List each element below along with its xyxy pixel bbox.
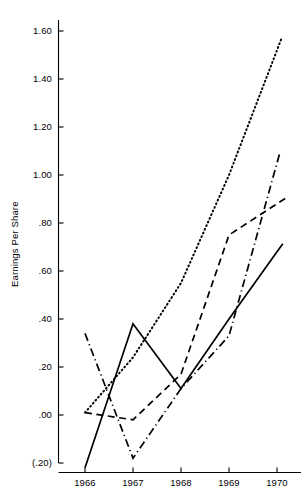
x-axis-tick-label: 1969: [209, 478, 249, 488]
y-axis-tick-label: .60: [12, 266, 52, 276]
y-axis-tick-label: 1.00: [12, 170, 52, 180]
y-axis-tick-label: 1.40: [12, 74, 52, 84]
series-dashed: [85, 197, 287, 420]
axis-lines: [59, 20, 302, 473]
y-axis-tick-label: .00: [12, 410, 52, 420]
y-axis-tick-label: .80: [12, 218, 52, 228]
x-axis-tick-label: 1970: [257, 478, 297, 488]
x-axis-ticks: [85, 468, 277, 473]
y-axis-tick-label: 1.60: [12, 26, 52, 36]
y-axis-ticks: [59, 31, 64, 463]
x-axis-tick-label: 1968: [161, 478, 201, 488]
series-lines: [85, 37, 287, 468]
x-axis-tick-label: 1967: [113, 478, 153, 488]
y-axis-tick-label: .40: [12, 314, 52, 324]
y-axis-tick-label: 1.20: [12, 122, 52, 132]
y-axis-tick-label: .20: [12, 362, 52, 372]
series-dotted: [85, 37, 282, 412]
x-axis-tick-label: 1966: [65, 478, 105, 488]
series-dash-dot: [85, 151, 280, 458]
chart-container: Earnings Per Share 1.601.401.201.00.80.6…: [0, 0, 305, 502]
y-axis-tick-label: (.20): [12, 458, 52, 468]
